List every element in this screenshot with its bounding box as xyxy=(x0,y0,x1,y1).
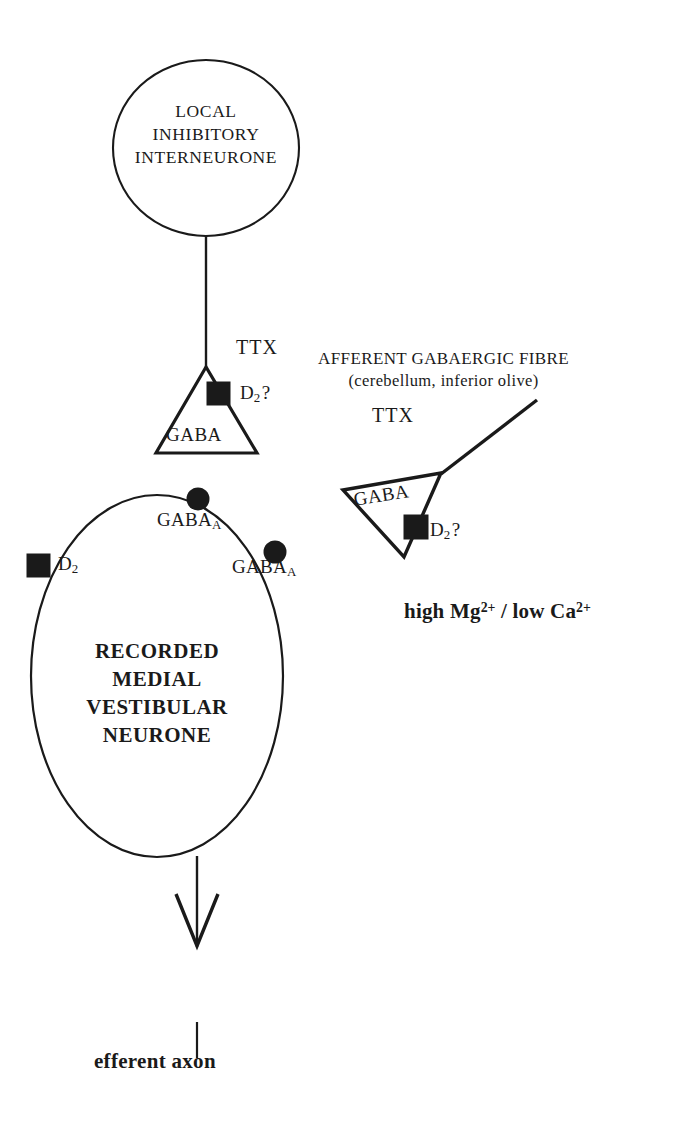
gabaa-right-base: GABA xyxy=(232,556,287,577)
d2-receptor-label-local-terminal: D2 ? xyxy=(240,382,270,405)
ionic-high-word: high xyxy=(404,599,445,623)
ionic-mg: Mg xyxy=(450,599,481,623)
d2-receptor-label-afferent-terminal: D2 ? xyxy=(430,519,460,542)
ionic-ca: Ca xyxy=(550,599,576,623)
d2-right-base: D xyxy=(430,519,444,540)
d2-left-base: D xyxy=(240,382,254,403)
soma-line-4: NEURONE xyxy=(103,723,212,747)
ionic-low-word: low xyxy=(512,599,544,623)
gabaa-top-sub: A xyxy=(212,517,221,532)
interneurone-line-1: LOCAL xyxy=(175,101,236,121)
gabaa-right-sub: A xyxy=(287,564,296,579)
soma-line-3: VESTIBULAR xyxy=(86,695,228,719)
ionic-ca-charge: 2+ xyxy=(576,600,591,615)
gabaa-receptor-label-top: GABAA xyxy=(157,509,221,532)
efferent-axon-label: efferent axon xyxy=(94,1050,216,1074)
afferent-gabaergic-fibre-label: AFFERENT GABAERGIC FIBRE (cerebellum, in… xyxy=(318,348,569,392)
soma-line-2: MEDIAL xyxy=(112,667,201,691)
gabaa-receptor-label-right: GABAA xyxy=(232,556,296,579)
afferent-fibre-line xyxy=(441,400,537,474)
ttx-label-local-terminal: TTX xyxy=(236,336,278,358)
afferent-line-1: AFFERENT GABAERGIC FIBRE xyxy=(318,349,569,368)
d2-receptor-label-soma: D2 xyxy=(58,553,78,576)
d2-soma-base: D xyxy=(58,553,72,574)
ionic-separator: / xyxy=(501,599,507,623)
d2-receptor-square-right-terminal xyxy=(404,515,428,539)
ionic-condition-label: high Mg2+ / low Ca2+ xyxy=(404,600,591,624)
gabaa-top-base: GABA xyxy=(157,509,212,530)
recorded-medial-vestibular-neurone-label: RECORDED MEDIAL VESTIBULAR NEURONE xyxy=(52,637,262,750)
interneurone-line-2: INHIBITORY xyxy=(153,124,260,144)
d2-right-query: ? xyxy=(452,519,460,540)
ionic-mg-charge: 2+ xyxy=(481,600,496,615)
d2-soma-sub: 2 xyxy=(72,561,78,576)
gabaa-receptor-circle-top xyxy=(187,488,210,511)
local-inhibitory-interneurone-label: LOCAL INHIBITORY INTERNEURONE xyxy=(118,100,294,169)
d2-left-query: ? xyxy=(262,382,270,403)
d2-receptor-square-soma xyxy=(27,554,50,577)
soma-line-1: RECORDED xyxy=(95,639,219,663)
d2-receptor-square-left-terminal xyxy=(207,382,230,405)
gaba-label-local-terminal: GABA xyxy=(166,424,222,445)
interneurone-line-3: INTERNEURONE xyxy=(135,147,277,167)
ttx-label-afferent-terminal: TTX xyxy=(372,404,414,426)
diagram-canvas xyxy=(0,0,687,1133)
afferent-line-2: (cerebellum, inferior olive) xyxy=(318,370,569,391)
neuron-circuit-diagram: LOCAL INHIBITORY INTERNEURONE TTX AFFERE… xyxy=(0,0,687,1133)
